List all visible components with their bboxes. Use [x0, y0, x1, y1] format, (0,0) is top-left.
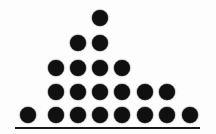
- data-point: [20, 107, 36, 123]
- data-point: [92, 60, 108, 76]
- data-point: [48, 107, 64, 123]
- data-point: [159, 107, 175, 123]
- x-axis-line: [15, 127, 200, 129]
- plot-area: [0, 0, 216, 134]
- data-point: [137, 107, 153, 123]
- data-point: [92, 84, 108, 100]
- data-point: [70, 60, 86, 76]
- data-point: [48, 84, 64, 100]
- data-point: [92, 107, 108, 123]
- data-point: [114, 107, 130, 123]
- data-point: [92, 10, 108, 26]
- data-point: [137, 84, 153, 100]
- dot-plot-chart: [0, 0, 216, 134]
- data-point: [70, 35, 86, 51]
- data-point: [92, 35, 108, 51]
- data-point: [70, 107, 86, 123]
- data-point: [159, 84, 175, 100]
- data-point: [70, 84, 86, 100]
- data-point: [114, 60, 130, 76]
- data-point: [114, 84, 130, 100]
- data-point: [182, 107, 198, 123]
- data-point: [48, 60, 64, 76]
